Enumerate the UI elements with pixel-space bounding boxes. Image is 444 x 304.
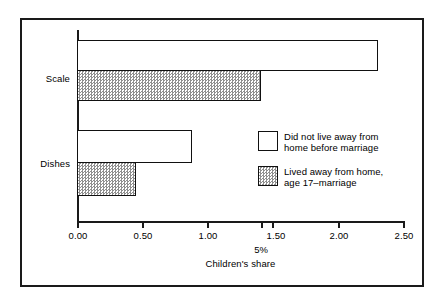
category-label-scale: Scale	[0, 74, 70, 84]
legend-item-did-not-live-away: Did not live away from home before marri…	[258, 131, 383, 153]
x-axis-line	[77, 221, 404, 223]
x-axis-title: Children's share	[77, 258, 404, 269]
bar-dishes-did-not-live-away	[77, 130, 192, 163]
x-tick-label-1: 0.50	[120, 230, 166, 241]
annotation-tick-5-percent	[261, 221, 263, 228]
x-tick-label-4: 2.00	[316, 230, 362, 241]
x-tick-label-3: 1.50	[253, 230, 299, 241]
x-tick-1	[142, 221, 144, 228]
chart-plot-area: Scale Dishes 0.00 0.50 1.00 1.50 2.00 2.…	[0, 0, 444, 304]
x-tick-label-0: 0.00	[55, 230, 101, 241]
legend-swatch-hatched-icon	[258, 166, 278, 186]
bar-scale-lived-away	[77, 70, 261, 101]
legend-item-lived-away: Lived away from home, age 17–marriage	[258, 166, 383, 188]
annotation-label-5-percent: 5%	[241, 244, 281, 255]
x-tick-0	[77, 221, 79, 228]
x-tick-5	[403, 221, 405, 228]
bar-dishes-lived-away	[77, 162, 136, 196]
x-tick-3	[272, 221, 274, 228]
legend-label-lived-away: Lived away from home, age 17–marriage	[284, 166, 383, 188]
x-tick-4	[338, 221, 340, 228]
bar-scale-did-not-live-away	[77, 40, 378, 71]
category-label-dishes: Dishes	[0, 159, 70, 169]
legend-label-did-not-live-away: Did not live away from home before marri…	[284, 131, 379, 153]
x-tick-2	[207, 221, 209, 228]
legend-swatch-open-icon	[258, 131, 278, 151]
x-tick-label-5: 2.50	[381, 230, 427, 241]
chart-legend: Did not live away from home before marri…	[258, 131, 383, 201]
x-tick-label-2: 1.00	[185, 230, 231, 241]
